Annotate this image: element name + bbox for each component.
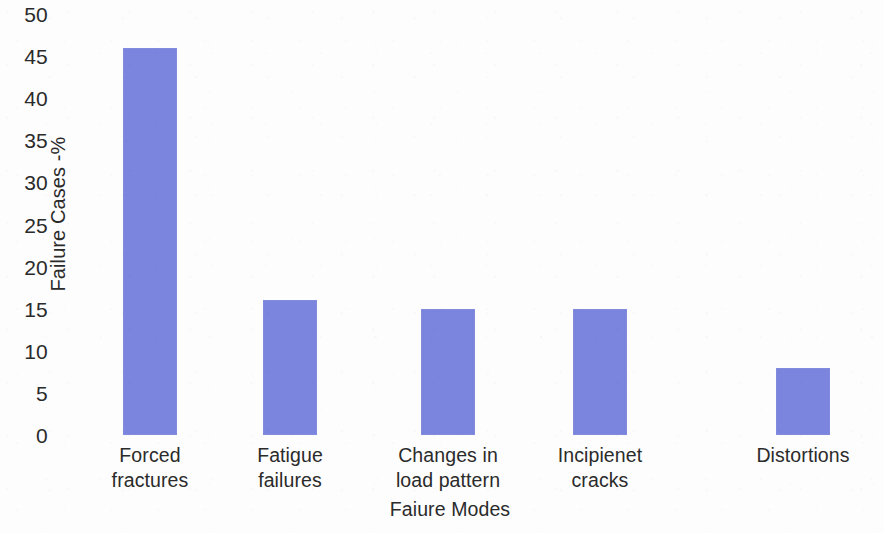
- bar-chart: 50454035302520151050 Failure Cases -% Fo…: [0, 0, 884, 533]
- x-axis-tick-label-line: Forced: [69, 443, 231, 468]
- y-axis-tick-label: 20: [4, 256, 48, 277]
- x-axis-tick-labels: ForcedfracturesFatiguefailuresChanges in…: [66, 443, 876, 499]
- bar: [263, 300, 317, 435]
- y-axis-tick-label: 15: [4, 298, 48, 319]
- x-axis-tick-label: Distortions: [722, 443, 884, 468]
- y-axis-tick-label: 40: [4, 88, 48, 109]
- x-axis-tick-label: Fatiguefailures: [209, 443, 371, 493]
- y-axis-tick-label: 45: [4, 46, 48, 67]
- x-axis-tick-label-line: Incipienet: [519, 443, 681, 468]
- y-axis-tick-label: 25: [4, 214, 48, 235]
- bar: [421, 309, 475, 435]
- bar: [776, 368, 830, 435]
- x-axis-tick-label: Changes inload pattern: [367, 443, 529, 493]
- x-axis-tick-label-line: failures: [209, 468, 371, 493]
- bar: [573, 309, 627, 435]
- y-axis-tick-labels: 50454035302520151050: [0, 0, 48, 533]
- plot-area: [66, 14, 876, 435]
- bar: [123, 48, 177, 435]
- y-axis-tick-label: 0: [4, 425, 48, 446]
- y-axis-tick-label: 10: [4, 340, 48, 361]
- x-axis-title: Faiure Modes: [0, 498, 884, 521]
- x-axis-tick-label: Forcedfractures: [69, 443, 231, 493]
- x-axis-tick-label-line: Fatigue: [209, 443, 371, 468]
- x-axis-title-text: Faiure Modes: [390, 498, 510, 520]
- y-axis-tick-label: 50: [4, 4, 48, 25]
- x-axis-tick-label: Incipienetcracks: [519, 443, 681, 493]
- x-axis-tick-label-line: Changes in: [367, 443, 529, 468]
- x-axis-tick-label-line: load pattern: [367, 468, 529, 493]
- x-axis-tick-label-line: Distortions: [722, 443, 884, 468]
- y-axis-tick-label: 5: [4, 382, 48, 403]
- x-axis-tick-label-line: fractures: [69, 468, 231, 493]
- y-axis-tick-label: 30: [4, 172, 48, 193]
- x-axis-tick-label-line: cracks: [519, 468, 681, 493]
- y-axis-tick-label: 35: [4, 130, 48, 151]
